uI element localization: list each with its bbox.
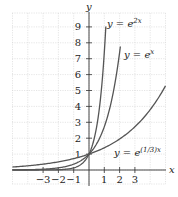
x-tick-label: −1 [66,174,81,185]
x-tick-label: −2 [51,174,66,185]
x-tick-label: 3 [132,174,138,185]
y-tick-label: 2 [75,133,81,144]
x-tick-label: 1 [101,174,107,185]
y-axis-label: y [85,1,92,12]
curve-label-1: y = ex [123,48,154,60]
x-tick-label: −3 [36,174,51,185]
y-tick-label: 4 [75,101,81,112]
x-axis-label: x [169,164,175,175]
y-tick-label: 3 [75,117,81,128]
y-tick-label: 6 [75,69,81,80]
y-tick-label: 9 [75,21,81,32]
y-tick-label: 8 [75,37,81,48]
curve-1 [13,46,121,169]
ticks: −3−2−1123123456789 [36,21,138,185]
curve-label-0: y = e2x [106,17,142,29]
curve-label-2: y = e(1/3)x [113,146,161,158]
y-tick-label: 5 [75,85,81,96]
exponential-chart: x y −3−2−1123123456789 y = e2xy = exy = … [0,0,178,197]
y-tick-label: 7 [75,53,81,64]
axes: x y [12,1,175,186]
curve-0 [13,27,106,171]
x-tick-label: 2 [116,174,122,185]
